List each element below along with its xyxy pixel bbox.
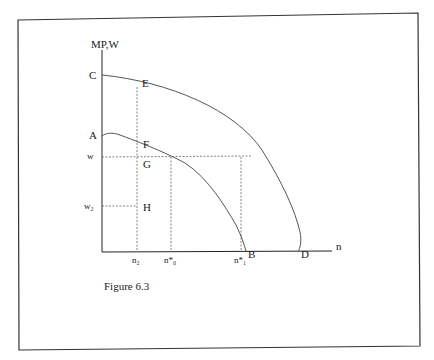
point-C-label: C xyxy=(89,69,96,81)
figure-frame: MP,W n C E A F G H B D w w₂ n₂ n*₀ n*₁ F… xyxy=(0,0,434,360)
x-tick-n0: n*₀ xyxy=(164,255,176,265)
x-axis xyxy=(102,251,332,252)
w-horizontal xyxy=(102,156,252,157)
point-H-label: H xyxy=(143,201,151,213)
figure-caption: Figure 6.3 xyxy=(104,280,150,292)
curve-CD xyxy=(102,75,301,252)
curve-AB xyxy=(102,133,246,251)
point-G-label: G xyxy=(143,158,151,170)
x-tick-n1: n*₁ xyxy=(234,255,246,265)
x-tick-n2: n₂ xyxy=(132,255,140,265)
y-axis-label: MP,W xyxy=(91,38,119,50)
point-D-label: D xyxy=(301,248,309,260)
y-tick-w2: w₂ xyxy=(84,201,94,211)
point-F-label: F xyxy=(143,138,149,150)
point-A-label: A xyxy=(89,129,97,141)
figure-border xyxy=(18,13,420,350)
y-tick-w: w xyxy=(87,151,94,161)
point-B-label: B xyxy=(248,248,255,260)
x-axis-label: n xyxy=(336,240,342,252)
point-E-label: E xyxy=(142,77,149,89)
